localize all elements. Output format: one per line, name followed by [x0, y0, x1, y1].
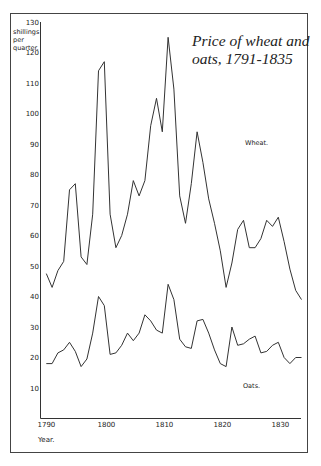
oats-series-line	[46, 284, 301, 366]
oats-series-label: Oats.	[243, 382, 260, 390]
y-tick-label: 110	[26, 80, 39, 88]
y-axis-label-line-1: shillings	[13, 28, 40, 36]
chart-title-line-1: Price of wheat and	[191, 32, 310, 49]
y-tick-label: 130	[26, 19, 39, 27]
y-tick-label: 90	[30, 141, 39, 149]
wheat-series-label: Wheat.	[245, 139, 268, 147]
y-tick-label: 80	[30, 171, 39, 179]
wheat-series-line	[46, 37, 301, 299]
y-axis-label: shillings per quarter.	[13, 28, 40, 52]
x-tick-label: 1790	[38, 421, 56, 429]
y-tick-label: 100	[26, 110, 39, 118]
y-axis-label-line-2: per	[13, 36, 24, 44]
x-tick-label: 1800	[98, 421, 116, 429]
y-tick-label: 30	[30, 324, 39, 332]
y-tick-label: 70	[30, 202, 39, 210]
y-tick-label: 20	[30, 354, 39, 362]
y-tick-label: 10	[30, 385, 39, 393]
y-axis-label-line-3: quarter.	[13, 44, 39, 52]
price-chart: 102030405060708090100110120130 179018001…	[0, 0, 321, 466]
chart-title: Price of wheat and oats, 1791-1835	[191, 32, 310, 67]
x-axis-label: Year.	[37, 436, 54, 444]
y-tick-label: 40	[30, 293, 39, 301]
x-tick-labels: 17901800181018201830	[38, 421, 290, 429]
y-tick-labels: 102030405060708090100110120130	[26, 19, 39, 393]
y-tick-label: 60	[30, 232, 39, 240]
y-tick-label: 50	[30, 263, 39, 271]
x-tick-label: 1810	[156, 421, 174, 429]
axes	[41, 22, 302, 419]
chart-title-line-2: oats, 1791-1835	[192, 50, 293, 67]
x-tick-label: 1820	[214, 421, 232, 429]
x-tick-label: 1830	[272, 421, 290, 429]
